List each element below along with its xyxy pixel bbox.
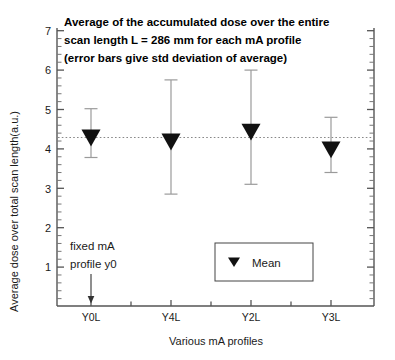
chart-title: Average of the accumulated dose over the… [64,16,329,64]
data-point-group-Y0L[interactable] [82,109,101,158]
chart-title-line-1: Average of the accumulated dose over the… [64,16,329,28]
data-point-group-Y2L[interactable] [242,70,261,184]
y-tick-label-6: 6 [45,64,51,76]
mean-marker-triangle[interactable] [162,134,181,151]
y-tick-label-3: 3 [45,183,51,195]
down-arrow-icon [88,296,95,304]
x-axis-label: Various mA profiles [169,335,263,347]
chart-svg: Average of the accumulated dose over the… [0,0,395,360]
x-tick-label-Y2L: Y2L [242,311,261,323]
chart-title-line-2: scan length L = 286 mm for each mA profi… [64,34,301,46]
annotation-line-1: fixed mA [70,240,115,252]
y-tick-label-1: 1 [45,261,51,273]
legend-label-mean: Mean [252,257,281,269]
x-axis-tick-labels: Y0L Y4L Y2L Y3L [82,311,341,323]
annotation-line-2: profile y0 [70,258,117,270]
chart-title-line-3: (error bars give std deviation of averag… [64,52,287,64]
y-tick-label-2: 2 [45,222,51,234]
annotation-fixed-ma: fixed mA profile y0 [70,240,117,304]
mean-marker-triangle[interactable] [322,141,341,158]
data-point-group-Y3L[interactable] [322,117,341,172]
y-tick-label-5: 5 [45,104,51,116]
y-axis-label: Average dose over total scan length(a.u.… [8,111,20,312]
x-tick-label-Y3L: Y3L [322,311,341,323]
y-tick-label-7: 7 [45,25,51,37]
y-tick-label-4: 4 [45,143,51,155]
x-tick-label-Y0L: Y0L [82,311,101,323]
x-axis-ticks [91,300,331,306]
chart-container: Average of the accumulated dose over the… [0,0,395,360]
x-tick-label-Y4L: Y4L [162,311,181,323]
data-point-group-Y4L[interactable] [162,80,181,194]
legend: Mean [215,243,313,281]
mean-marker-triangle[interactable] [82,130,101,147]
mean-marker-triangle[interactable] [242,124,261,141]
